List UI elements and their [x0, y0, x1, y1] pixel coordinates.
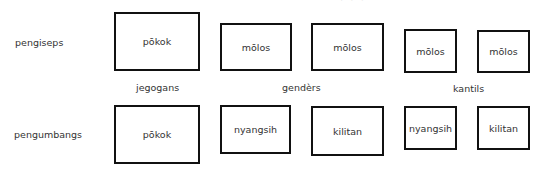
box-label: pōkok	[143, 129, 171, 140]
box-label: nyangsih	[234, 124, 277, 135]
box-label: mōlos	[489, 46, 517, 57]
box-pengiseps-jegogan: pōkok	[114, 12, 200, 71]
box-pengiseps-kantil-1: mōlos	[404, 29, 457, 73]
box-label: kilitan	[489, 123, 518, 134]
row-label-pengumbangs: pengumbangs	[14, 129, 82, 140]
box-label: mōlos	[333, 42, 361, 53]
cut-off-caption-fragment: · · ·	[340, 0, 410, 2]
box-pengiseps-gender-2: mōlos	[311, 23, 384, 71]
box-label: kilitan	[333, 126, 362, 137]
box-pengumbangs-kantil-2: kilitan	[477, 106, 530, 150]
box-label: mōlos	[416, 46, 444, 57]
box-label: mōlos	[242, 42, 270, 53]
group-label-kantils: kantils	[453, 83, 484, 94]
box-pengiseps-kantil-2: mōlos	[477, 30, 530, 73]
box-pengumbangs-gender-2: kilitan	[311, 106, 384, 156]
group-label-genders: gendèrs	[282, 82, 321, 93]
box-pengumbangs-jegogan: pōkok	[114, 105, 200, 164]
box-label: pōkok	[143, 36, 171, 47]
box-label: nyangsih	[409, 123, 452, 134]
box-pengumbangs-gender-1: nyangsih	[220, 105, 291, 154]
group-label-jegogans: jegogans	[136, 82, 179, 93]
box-pengumbangs-kantil-1: nyangsih	[404, 106, 457, 150]
row-label-pengiseps: pengiseps	[15, 37, 63, 48]
box-pengiseps-gender-1: mōlos	[220, 23, 292, 71]
